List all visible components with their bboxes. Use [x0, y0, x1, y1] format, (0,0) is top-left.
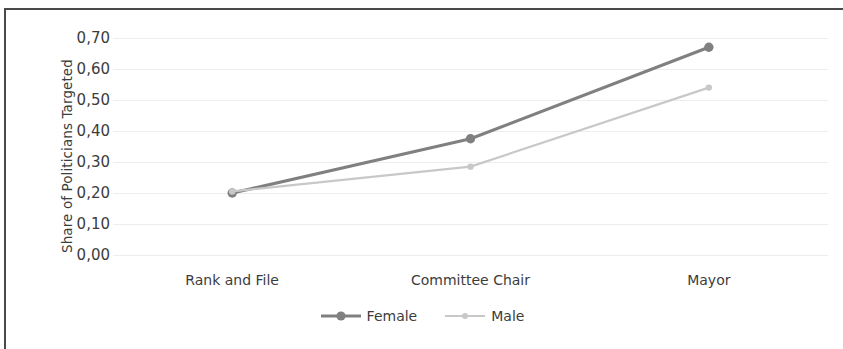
data-point-male [229, 188, 235, 194]
line-chart: 0,000,100,200,300,400,500,600,70 Share o… [0, 0, 843, 349]
data-point-male [706, 84, 712, 90]
chart-legend: Female Male [0, 308, 843, 324]
legend-label-female: Female [367, 308, 418, 324]
legend-swatch-male-icon [443, 309, 487, 323]
legend-item-male[interactable]: Male [443, 308, 524, 324]
chart-figure: 0,000,100,200,300,400,500,600,70 Share o… [0, 0, 843, 349]
legend-item-female[interactable]: Female [319, 308, 418, 324]
series-line-female [232, 47, 709, 193]
data-point-male [467, 163, 473, 169]
data-point-female [704, 43, 713, 52]
legend-label-male: Male [491, 308, 524, 324]
plot-series-layer [0, 0, 843, 349]
legend-swatch-female-icon [319, 309, 363, 323]
data-point-female [466, 134, 475, 143]
